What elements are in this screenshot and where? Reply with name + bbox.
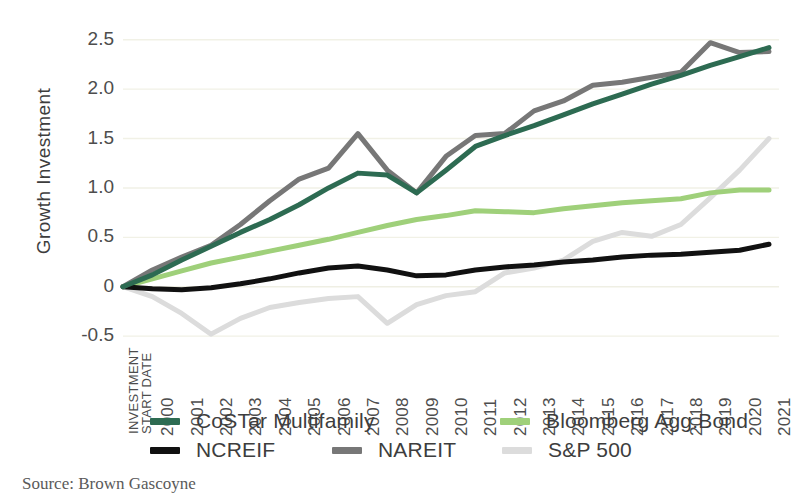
legend-swatch-bloomberg bbox=[500, 418, 530, 425]
legend-item-sp500[interactable]: S&P 500 bbox=[502, 438, 632, 462]
legend-item-bloomberg[interactable]: Bloomberg Agg.Bond bbox=[500, 409, 748, 433]
legend-row-secondary: NCREIFNAREITS&P 500 bbox=[150, 437, 790, 463]
legend-label-bloomberg: Bloomberg Agg.Bond bbox=[546, 409, 748, 433]
legend-swatch-nareit bbox=[332, 447, 362, 454]
legend-label-nareit: NAREIT bbox=[378, 438, 456, 462]
source-note: Source: Brown Gascoyne bbox=[22, 474, 196, 494]
legend-label-costar: CoSTar Multifamily bbox=[196, 409, 375, 433]
chart-legend: CoSTar MultifamilyBloomberg Agg.Bond NCR… bbox=[150, 408, 790, 466]
legend-swatch-sp500 bbox=[502, 447, 532, 454]
legend-item-nareit[interactable]: NAREIT bbox=[332, 438, 456, 462]
legend-label-sp500: S&P 500 bbox=[548, 438, 632, 462]
legend-swatch-ncreif bbox=[150, 447, 180, 454]
legend-item-ncreif[interactable]: NCREIF bbox=[150, 438, 275, 462]
legend-row-primary: CoSTar MultifamilyBloomberg Agg.Bond bbox=[150, 408, 790, 434]
legend-label-ncreif: NCREIF bbox=[196, 438, 275, 462]
legend-swatch-costar bbox=[150, 418, 180, 425]
legend-item-costar[interactable]: CoSTar Multifamily bbox=[150, 409, 375, 433]
